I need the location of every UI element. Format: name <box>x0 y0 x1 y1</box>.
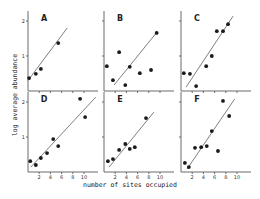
data-point <box>133 145 137 149</box>
x-tick-label: 4 <box>49 174 52 180</box>
data-point <box>128 147 132 151</box>
data-point <box>56 41 60 45</box>
x-tick-label: 10 <box>81 174 87 180</box>
panel-d: 12246810D <box>22 92 98 180</box>
x-tick-label: 2 <box>191 174 194 180</box>
data-point <box>34 163 38 167</box>
data-point <box>78 97 82 101</box>
regression-line <box>109 112 154 167</box>
regression-line <box>187 99 235 169</box>
x-tick-label: 6 <box>136 174 139 180</box>
data-point <box>183 161 187 165</box>
x-tick-label: 8 <box>224 174 227 180</box>
regression-line <box>28 28 67 81</box>
panel-label: E <box>117 95 122 104</box>
data-point <box>111 157 115 161</box>
data-point <box>123 83 127 87</box>
data-point <box>182 71 186 75</box>
panel-label: D <box>41 95 48 104</box>
panel-label: F <box>194 95 199 104</box>
x-axis-label: number of sites occupied <box>83 181 177 189</box>
data-point <box>205 144 209 148</box>
data-point <box>204 64 208 68</box>
data-point <box>221 99 225 103</box>
y-tick-label: 1 <box>22 53 25 59</box>
regression-line <box>114 32 157 85</box>
data-point <box>144 116 148 120</box>
x-tick-label: 4 <box>125 174 128 180</box>
data-point <box>117 50 121 54</box>
data-point <box>34 72 38 76</box>
data-point <box>123 142 127 146</box>
panel-c: C <box>179 11 251 93</box>
data-point <box>51 137 55 141</box>
data-point <box>45 151 49 155</box>
data-point <box>105 64 109 68</box>
panel-label: C <box>194 14 200 23</box>
x-tick-label: 6 <box>213 174 216 180</box>
data-point <box>83 115 87 119</box>
x-tick-label: 8 <box>147 174 150 180</box>
data-point <box>216 149 220 153</box>
y-tick-label: 1 <box>22 134 25 140</box>
x-tick-label: 10 <box>234 174 240 180</box>
data-point <box>149 68 153 72</box>
data-point <box>215 29 219 33</box>
data-point <box>210 129 214 133</box>
data-point <box>138 71 142 75</box>
panel-e: 246810E <box>102 92 174 180</box>
data-point <box>227 114 231 118</box>
data-point <box>187 165 191 169</box>
data-point <box>39 156 43 160</box>
panel-label: B <box>117 14 123 23</box>
y-tick-label: 2 <box>22 18 25 24</box>
data-point <box>199 145 203 149</box>
data-point <box>111 78 115 82</box>
data-point <box>221 29 225 33</box>
x-tick-label: 4 <box>202 174 205 180</box>
x-tick-label: 2 <box>114 174 117 180</box>
data-point <box>106 159 110 163</box>
data-point <box>210 54 214 58</box>
data-point <box>39 67 43 71</box>
figure: log average abundance number of sites oc… <box>0 0 260 199</box>
data-point <box>27 76 31 80</box>
x-tick-label: 10 <box>157 174 163 180</box>
data-point <box>193 146 197 150</box>
data-point <box>226 22 230 26</box>
panel-a: 12A <box>22 11 98 93</box>
x-tick-label: 2 <box>38 174 41 180</box>
x-tick-label: 6 <box>60 174 63 180</box>
data-point <box>188 72 192 76</box>
data-point <box>128 65 132 69</box>
data-point <box>56 144 60 148</box>
regression-line <box>186 16 233 87</box>
data-point <box>28 159 32 163</box>
data-point <box>194 84 198 88</box>
panel-f: 246810F <box>179 92 251 180</box>
x-tick-label: 8 <box>71 174 74 180</box>
data-point <box>117 148 121 152</box>
data-point <box>155 31 159 35</box>
y-tick-label: 2 <box>22 99 25 105</box>
panel-label: A <box>41 14 48 23</box>
panel-b: B <box>102 11 174 93</box>
y-axis-label: log average abundance <box>11 54 19 136</box>
